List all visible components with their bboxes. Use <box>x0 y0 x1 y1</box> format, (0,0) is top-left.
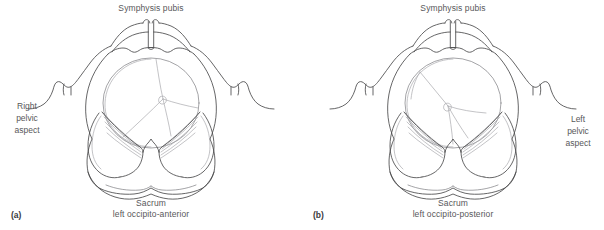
symphysis-pubis-a <box>108 20 194 54</box>
position-label-b: left occipito-posterior <box>413 209 494 220</box>
side-label-line1: Right <box>6 100 48 112</box>
side-label-line3: aspect <box>557 137 599 149</box>
sacrum-label-b: Sacrum <box>438 198 468 209</box>
panel-letter-b: (b) <box>313 210 324 220</box>
side-label-line1: Left <box>557 113 599 125</box>
side-label-line2: pelvic <box>557 125 599 137</box>
sacrum-label-a: Sacrum <box>136 198 166 209</box>
symphysis-pubis-b <box>410 20 496 54</box>
side-label-line3: aspect <box>6 124 48 136</box>
side-label-line2: pelvic <box>6 112 48 124</box>
symphysis-pubis-label-a: Symphysis pubis <box>118 3 183 14</box>
panel-letter-a: (a) <box>11 210 21 220</box>
symphysis-pubis-label-b: Symphysis pubis <box>420 3 485 14</box>
right-pelvic-aspect-label: Right pelvic aspect <box>6 100 48 136</box>
figure-container: Symphysis pubis Sacrum left occipito-ant… <box>0 0 604 230</box>
panel-a: Symphysis pubis Sacrum left occipito-ant… <box>0 0 302 230</box>
left-pelvic-aspect-label: Left pelvic aspect <box>557 113 599 149</box>
position-label-a: left occipito-anterior <box>113 209 189 220</box>
fetal-head-a <box>103 58 199 148</box>
fetal-head-b <box>405 58 501 148</box>
panel-b: Symphysis pubis Sacrum left occipito-pos… <box>302 0 604 230</box>
